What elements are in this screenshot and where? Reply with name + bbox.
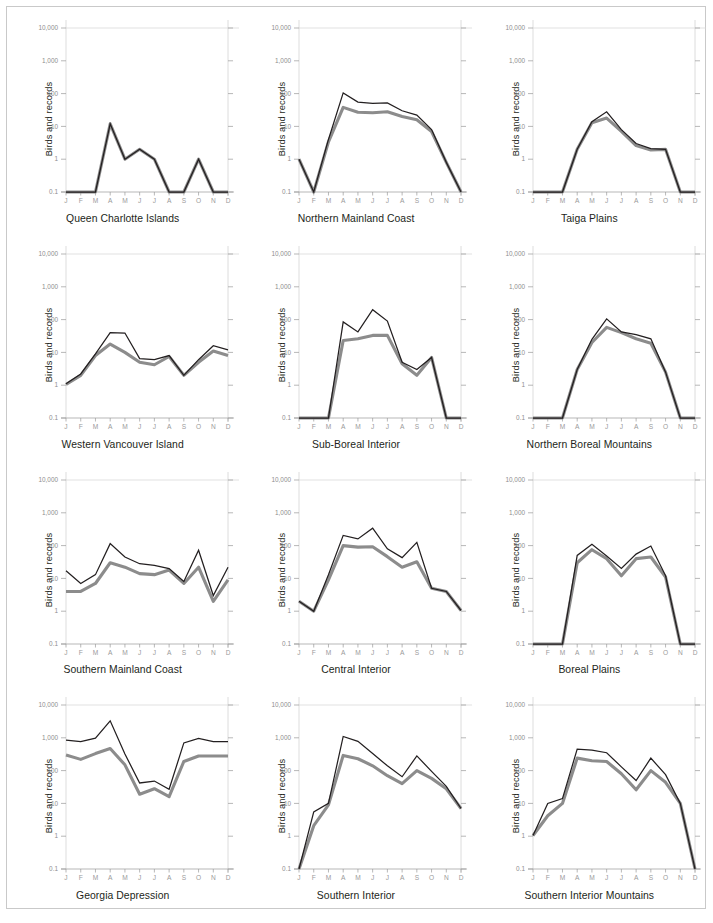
- y-tick-label: 0.1: [49, 188, 58, 195]
- x-tick-label: J: [64, 649, 67, 656]
- panel-title: Boreal Plains: [473, 664, 706, 675]
- panel-title: Georgia Depression: [6, 890, 239, 901]
- x-tick-label: A: [341, 423, 346, 430]
- plot-area: 10,0001,0001001010.1JFMAMJJASONDBirds an…: [239, 683, 472, 909]
- y-tick-label: 1,000: [42, 57, 58, 64]
- y-tick-label: 1: [54, 155, 58, 162]
- x-tick-label: J: [619, 874, 622, 881]
- x-tick-label: M: [93, 649, 99, 656]
- x-tick-label: N: [678, 649, 683, 656]
- plot-svg: 10,0001,0001001010.1JFMAMJJASOND: [239, 232, 472, 458]
- series-line-birds: [299, 528, 461, 611]
- y-axis-title: Birds and records: [511, 533, 521, 608]
- x-tick-label: J: [531, 423, 534, 430]
- x-tick-label: N: [678, 874, 683, 881]
- x-tick-label: J: [153, 874, 156, 881]
- x-tick-label: A: [167, 649, 172, 656]
- y-tick-label: 1,000: [509, 734, 525, 741]
- x-tick-label: F: [312, 874, 316, 881]
- y-tick-label: 1: [54, 381, 58, 388]
- x-tick-label: N: [678, 197, 683, 204]
- y-axis-title: Birds and records: [278, 82, 288, 157]
- x-tick-label: D: [459, 874, 464, 881]
- y-tick-label: 1,000: [275, 509, 291, 516]
- x-tick-label: M: [93, 874, 99, 881]
- plot-svg: 10,0001,0001001010.1JFMAMJJASOND: [6, 458, 239, 684]
- x-tick-label: A: [400, 197, 405, 204]
- panel-title: Taiga Plains: [473, 213, 706, 224]
- series-line-records: [66, 124, 228, 192]
- y-tick-label: 1,000: [42, 509, 58, 516]
- y-tick-label: 0.1: [282, 865, 291, 872]
- y-axis-title: Birds and records: [278, 307, 288, 382]
- x-tick-label: D: [692, 197, 697, 204]
- y-tick-label: 1: [288, 607, 292, 614]
- x-tick-label: J: [371, 649, 374, 656]
- x-tick-label: O: [429, 874, 434, 881]
- x-tick-label: F: [312, 197, 316, 204]
- x-tick-label: O: [663, 423, 668, 430]
- panel-title: Southern Mainland Coast: [6, 664, 239, 675]
- x-tick-label: N: [211, 649, 216, 656]
- x-tick-label: F: [545, 197, 549, 204]
- series-line-birds: [66, 124, 228, 192]
- x-tick-label: S: [648, 874, 653, 881]
- figure-root: 10,0001,0001001010.1JFMAMJJASONDBirds an…: [0, 0, 713, 923]
- y-axis-title: Birds and records: [511, 759, 521, 834]
- x-tick-label: A: [400, 649, 405, 656]
- x-tick-label: N: [678, 423, 683, 430]
- x-tick-label: J: [371, 874, 374, 881]
- x-tick-label: M: [589, 197, 595, 204]
- x-tick-label: S: [182, 197, 187, 204]
- x-tick-label: A: [634, 197, 639, 204]
- y-tick-label: 10,000: [272, 701, 292, 708]
- x-tick-label: J: [386, 649, 389, 656]
- x-tick-label: D: [226, 423, 231, 430]
- x-tick-label: F: [79, 874, 83, 881]
- x-tick-label: J: [619, 423, 622, 430]
- x-tick-label: J: [619, 197, 622, 204]
- x-tick-label: S: [182, 423, 187, 430]
- panel-title: Queen Charlotte Islands: [6, 213, 239, 224]
- x-tick-label: J: [64, 423, 67, 430]
- x-tick-label: J: [153, 197, 156, 204]
- plot-area: 10,0001,0001001010.1JFMAMJJASONDBirds an…: [6, 232, 239, 458]
- x-tick-label: O: [429, 423, 434, 430]
- x-tick-label: A: [167, 197, 172, 204]
- x-tick-label: M: [122, 649, 128, 656]
- y-axis-title: Birds and records: [278, 759, 288, 834]
- series-line-birds: [533, 319, 695, 418]
- chart-panel: 10,0001,0001001010.1JFMAMJJASONDBirds an…: [473, 683, 706, 909]
- x-tick-label: S: [415, 649, 420, 656]
- panel-title: Southern Interior: [239, 890, 472, 901]
- x-tick-label: N: [211, 197, 216, 204]
- chart-panel: 10,0001,0001001010.1JFMAMJJASONDBirds an…: [473, 232, 706, 458]
- plot-svg: 10,0001,0001001010.1JFMAMJJASOND: [239, 6, 472, 232]
- x-tick-label: J: [371, 423, 374, 430]
- x-tick-label: F: [79, 197, 83, 204]
- x-tick-label: J: [298, 874, 301, 881]
- plot-area: 10,0001,0001001010.1JFMAMJJASONDBirds an…: [6, 458, 239, 684]
- series-line-records: [66, 562, 228, 601]
- y-tick-label: 10,000: [505, 250, 525, 257]
- plot-area: 10,0001,0001001010.1JFMAMJJASONDBirds an…: [473, 232, 706, 458]
- x-tick-label: M: [559, 874, 565, 881]
- panel-title: Southern Interior Mountains: [473, 890, 706, 901]
- x-tick-label: O: [663, 197, 668, 204]
- y-tick-label: 0.1: [516, 414, 525, 421]
- y-axis-title: Birds and records: [44, 533, 54, 608]
- y-tick-label: 1,000: [509, 283, 525, 290]
- x-tick-label: M: [589, 649, 595, 656]
- x-tick-label: A: [400, 874, 405, 881]
- x-tick-label: N: [444, 874, 449, 881]
- x-tick-label: J: [138, 423, 141, 430]
- x-tick-label: A: [400, 423, 405, 430]
- chart-panel: 10,0001,0001001010.1JFMAMJJASONDBirds an…: [473, 6, 706, 232]
- x-tick-label: A: [341, 874, 346, 881]
- panel-title: Northern Boreal Mountains: [473, 439, 706, 450]
- series-line-birds: [299, 93, 461, 192]
- x-tick-label: J: [605, 649, 608, 656]
- y-tick-label: 1: [288, 155, 292, 162]
- x-tick-label: M: [93, 197, 99, 204]
- x-tick-label: D: [226, 197, 231, 204]
